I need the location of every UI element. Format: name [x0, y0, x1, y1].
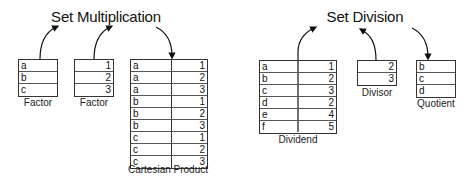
factor2-label: Factor — [80, 97, 108, 108]
table-row: c — [417, 73, 455, 85]
table-row: b2 — [131, 108, 207, 120]
table-row: a1 — [260, 61, 336, 73]
divisor-label: Divisor — [362, 87, 393, 98]
factor2-table: 1 2 3 — [74, 59, 114, 97]
arrow-factor2-icon — [94, 27, 110, 59]
table-row: d2 — [260, 97, 336, 109]
table-row: 2 — [75, 72, 113, 84]
table-row: c2 — [131, 144, 207, 156]
table-row: c1 — [131, 132, 207, 144]
arrow-product-icon — [156, 27, 172, 56]
table-row: a — [19, 60, 57, 72]
table-row: b3 — [131, 120, 207, 132]
table-row: 3 — [358, 73, 396, 85]
arrows-layer — [0, 0, 474, 176]
table-row: b1 — [131, 96, 207, 108]
table-row: a2 — [131, 72, 207, 84]
divisor-table: 2 3 — [357, 60, 397, 86]
table-row: a3 — [131, 84, 207, 96]
cartesian-product-table: a1 a2 a3 b1 b2 b3 c1 c2 c3 — [130, 59, 208, 169]
table-row: b — [417, 61, 455, 73]
table-row: b — [19, 72, 57, 84]
arrow-factor1-icon — [40, 27, 56, 59]
dividend-table: a1 b2 c3 d2 e4 f5 — [259, 60, 337, 134]
table-row: a1 — [131, 60, 207, 72]
arrow-divisor-icon — [362, 30, 376, 60]
dividend-label: Dividend — [279, 134, 318, 145]
table-row: c3 — [260, 85, 336, 97]
table-row: d — [417, 85, 455, 97]
quotient-table: b c d — [416, 60, 456, 98]
cartesian-product-label: Cartesian Product — [128, 164, 208, 175]
quotient-label: Quotient — [417, 98, 455, 109]
table-row: b2 — [260, 73, 336, 85]
table-row: 1 — [75, 60, 113, 72]
table-row: 2 — [358, 61, 396, 73]
table-row: e4 — [260, 109, 336, 121]
table-row: f5 — [260, 121, 336, 133]
table-row: c — [19, 84, 57, 96]
table-row: 3 — [75, 84, 113, 96]
factor1-label: Factor — [24, 97, 52, 108]
factor1-table: a b c — [18, 59, 58, 97]
arrow-quotient-icon — [412, 28, 428, 57]
